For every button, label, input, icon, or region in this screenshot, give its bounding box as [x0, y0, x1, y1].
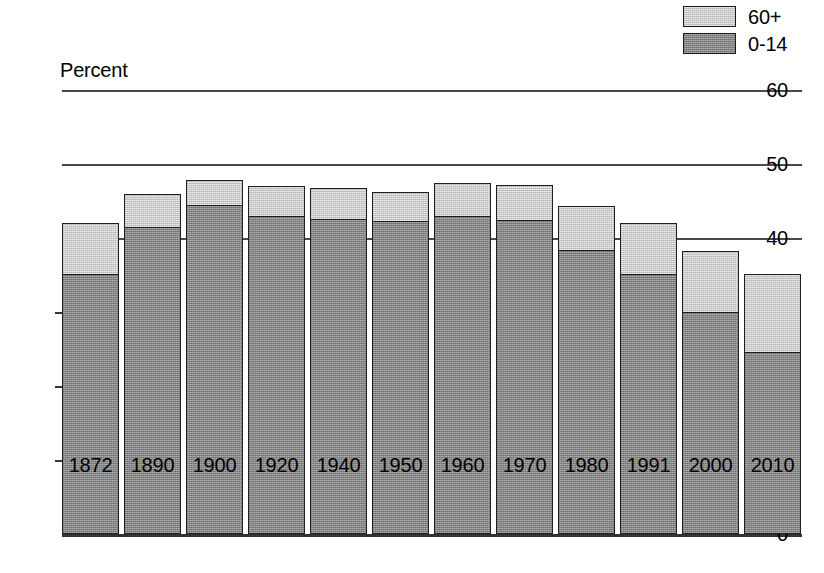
bar-1980: [558, 206, 615, 534]
bar-1991: [620, 223, 677, 534]
bar-2010: [744, 274, 801, 534]
bar-1890: [124, 194, 181, 534]
bar-1950: [372, 192, 429, 534]
bar-1940: [310, 188, 367, 534]
legend-label-0-14: 0-14: [748, 34, 787, 54]
chart-legend: 60+ 0-14: [683, 4, 787, 58]
bar-segment-60plus-1950: [372, 192, 429, 222]
bar-segment-60plus-1872: [62, 223, 119, 275]
bar-1960: [434, 183, 491, 535]
y-axis-title: Percent: [60, 59, 128, 81]
y-tick-mark-20: [55, 386, 62, 388]
bar-segment-0-14-1991: [620, 275, 677, 534]
bar-segment-0-14-1960: [434, 217, 491, 534]
gridline-60: [62, 90, 802, 92]
bar-segment-60plus-1890: [124, 194, 181, 229]
bar-segment-0-14-1872: [62, 275, 119, 534]
y-tick-label-40: 40: [744, 228, 788, 248]
bar-1920: [248, 186, 305, 534]
bar-segment-0-14-1980: [558, 251, 615, 534]
bar-segment-60plus-1940: [310, 188, 367, 220]
bar-segment-60plus-1900: [186, 180, 243, 206]
bar-2000: [682, 251, 739, 534]
bar-segment-60plus-1980: [558, 206, 615, 250]
bar-segment-60plus-1960: [434, 183, 491, 218]
bar-segment-0-14-2010: [744, 353, 801, 534]
bar-segment-60plus-2000: [682, 251, 739, 313]
bar-segment-0-14-1940: [310, 220, 367, 535]
bar-segment-0-14-1970: [496, 221, 553, 534]
legend-swatch-0-14: [683, 33, 736, 54]
stacked-bar-chart: 60+ 0-14 Percent 6050403020100 187218901…: [0, 0, 824, 573]
legend-item-0-14: 0-14: [683, 31, 787, 56]
bar-1970: [496, 185, 553, 534]
bar-segment-0-14-1920: [248, 217, 305, 534]
y-tick-label-50: 50: [744, 154, 788, 174]
bar-segment-60plus-1991: [620, 223, 677, 275]
bar-1900: [186, 180, 243, 534]
bar-segment-60plus-1920: [248, 186, 305, 217]
bar-segment-0-14-1890: [124, 228, 181, 534]
bar-1872: [62, 223, 119, 534]
bar-segment-60plus-2010: [744, 274, 801, 353]
y-tick-label-60: 60: [744, 80, 788, 100]
gridline-50: [62, 164, 802, 166]
y-tick-mark-30: [55, 312, 62, 314]
bar-segment-0-14-1900: [186, 206, 243, 534]
x-axis-baseline: [62, 534, 802, 537]
bar-segment-0-14-1950: [372, 222, 429, 534]
bar-segment-60plus-1970: [496, 185, 553, 221]
legend-swatch-60plus: [683, 6, 736, 27]
x-tick-label-2010: 2010: [733, 454, 813, 476]
bar-segment-0-14-2000: [682, 313, 739, 534]
legend-label-60plus: 60+: [748, 7, 781, 27]
legend-item-60plus: 60+: [683, 4, 787, 29]
